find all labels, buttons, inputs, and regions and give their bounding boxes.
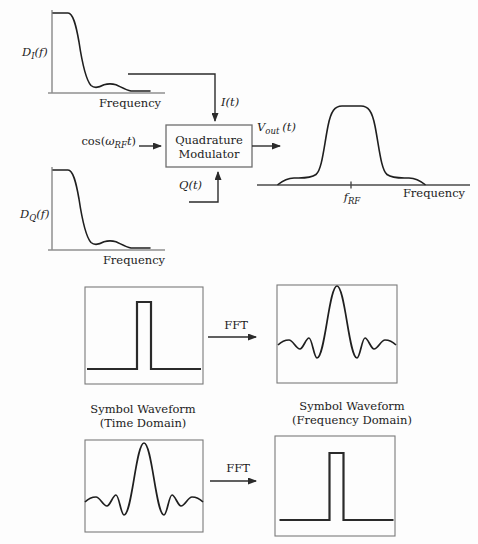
i-spectrum-axis-label: Frequency [99, 96, 162, 110]
sinc-waveform-copy [85, 443, 203, 515]
fft-row-freq-to-time: FFT [85, 436, 395, 536]
modulator-title-line2: Modulator [178, 147, 240, 161]
fft-row-time-to-freq: FFT [85, 285, 397, 384]
modulator-title-line1: Quadrature [175, 133, 243, 147]
figure-canvas: DI(f) Frequency DQ(f) Frequency I(t) Q(t… [0, 0, 478, 544]
time-caption-line2: (Time Domain) [100, 416, 187, 430]
freq-sinc-box [277, 285, 397, 383]
freq-caption-line1: Symbol Waveform [299, 399, 405, 413]
carrier-label: cos(ωRFt) [81, 134, 136, 150]
rf-spectrum-axis-label: Frequency [403, 186, 466, 200]
q-signal-path: Q(t) [179, 172, 218, 202]
time-caption-line1: Symbol Waveform [90, 402, 196, 416]
rect-pulse-waveform-copy [280, 453, 394, 520]
fft-label-row1: FFT [224, 318, 248, 332]
fft-label-row2: FFT [226, 461, 250, 475]
time-sinc-box [85, 440, 203, 532]
rect-pulse-waveform [87, 302, 201, 369]
rf-center-freq-label: fRF [343, 190, 362, 206]
rf-spectrum-curve [278, 106, 425, 185]
quadrature-modulator-figure: DI(f) Frequency DQ(f) Frequency I(t) Q(t… [0, 0, 478, 544]
output-signal: Vout(t) [252, 120, 296, 146]
q-spectrum-plot: DQ(f) Frequency [19, 167, 166, 267]
waveform-captions: Symbol Waveform (Time Domain) Symbol Wav… [90, 399, 412, 430]
i-spectrum-label: DI(f) [21, 45, 48, 61]
carrier-input: cos(ωRFt) [81, 134, 161, 150]
q-spectrum-axis-label: Frequency [103, 253, 166, 267]
q-spectrum-label: DQ(f) [19, 207, 49, 223]
quadrature-modulator-block: Quadrature Modulator [166, 125, 252, 167]
q-signal-label: Q(t) [179, 178, 202, 192]
i-spectrum-plot: DI(f) Frequency [21, 10, 165, 110]
freq-caption-line2: (Frequency Domain) [292, 413, 412, 427]
q-spectrum-curve [53, 170, 150, 248]
i-spectrum-curve [53, 13, 150, 91]
i-signal-label: I(t) [220, 95, 239, 109]
output-signal-label: Vout(t) [257, 120, 296, 136]
sinc-waveform [278, 286, 396, 358]
